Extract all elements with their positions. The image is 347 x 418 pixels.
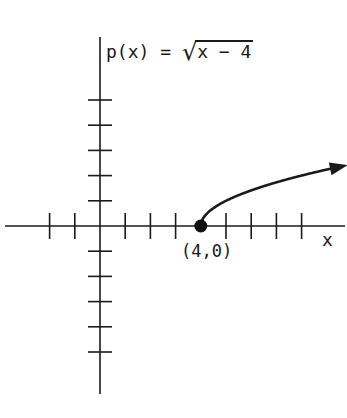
function-label: p(x) = √x − 4 [106,38,253,66]
x-axis-label: x [322,229,333,250]
radicand: x − 4 [195,40,253,62]
curve-arrow-icon [329,163,347,176]
start-point-dot [194,220,207,233]
function-curve [201,166,342,226]
point-label: (4,0) [181,241,232,261]
equals-sign: = [149,41,182,62]
function-name: p(x) [106,41,149,62]
